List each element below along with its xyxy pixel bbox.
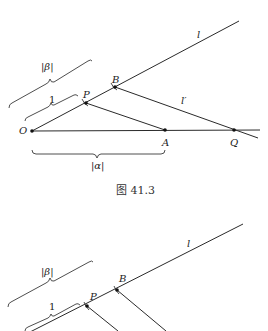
point-P: [84, 101, 88, 105]
figure-caption: 图 41.3: [116, 184, 155, 197]
label-A: A: [161, 137, 169, 148]
point-B-fig2: [115, 288, 119, 292]
point-B: [113, 85, 117, 89]
label-B: B: [111, 74, 119, 85]
label-alpha: |α|: [91, 160, 105, 172]
segment-PA: [86, 103, 165, 130]
point-A: [163, 128, 167, 132]
label-O: O: [19, 125, 27, 136]
point-P-fig2: [85, 304, 89, 308]
segment-P-down: [87, 306, 118, 331]
label-l: l: [197, 29, 200, 40]
line-OA-axis: [32, 130, 260, 131]
label-beta-fig2: |β|: [41, 266, 54, 278]
point-Q: [232, 128, 236, 132]
figure-41-3: O P B A Q l l′ |β| 1 |α| 图 41.3: [9, 21, 260, 197]
label-P: P: [82, 89, 90, 100]
point-O: [30, 129, 34, 133]
segment-B-down: [117, 290, 166, 331]
figure-2: P B l |β| 1: [8, 224, 243, 331]
label-one: 1: [49, 94, 55, 105]
label-l-fig2: l: [187, 238, 190, 249]
diagram-canvas: O P B A Q l l′ |β| 1 |α| 图 41.3 P B l |β…: [0, 0, 268, 331]
label-beta: |β|: [41, 61, 54, 73]
label-one-fig2: 1: [49, 301, 55, 312]
label-B-fig2: B: [118, 273, 126, 284]
label-P-fig2: P: [89, 291, 97, 302]
brace-alpha: [32, 150, 165, 158]
line-l-fig2: [30, 224, 243, 331]
label-l-prime: l′: [181, 95, 187, 106]
label-Q: Q: [230, 137, 238, 148]
